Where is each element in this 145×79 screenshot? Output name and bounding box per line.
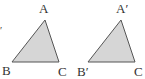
label-a: A [39, 1, 49, 16]
triangle-abc-shape [12, 20, 59, 62]
label-b: B [2, 63, 11, 78]
triangle-a-prime-b-prime-c-shape [88, 20, 135, 62]
label-c-right: C [134, 64, 143, 79]
label-b-prime: B′ [77, 64, 89, 79]
triangle-a-prime-b-prime-c: A′ B′ C [77, 1, 143, 79]
label-a-prime: A′ [116, 1, 128, 16]
stray-prime-mark: ′ [0, 25, 2, 36]
diagram-canvas: A B C ′ A′ B′ C [0, 0, 145, 79]
triangle-abc: A B C [2, 1, 67, 79]
label-c: C [58, 64, 67, 79]
